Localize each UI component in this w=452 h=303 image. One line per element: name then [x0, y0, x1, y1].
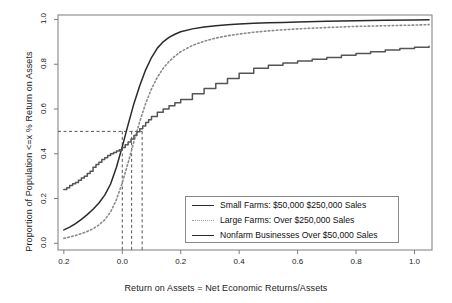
legend-item: Small Farms: $50,000 $250,000 Sales — [186, 199, 398, 212]
y-tick-label: 0.0 — [39, 236, 48, 250]
legend-label: Nonfarm Businesses Over $50,000 Sales — [220, 229, 378, 242]
chart-legend: Small Farms: $50,000 $250,000 Sales Larg… — [185, 196, 399, 243]
legend-label: Large Farms: Over $250,000 Sales — [220, 214, 354, 227]
reference-lines — [58, 131, 142, 250]
series-line — [64, 46, 429, 189]
x-tick-label: 0.0 — [107, 257, 137, 266]
y-tick-label: 0.2 — [39, 191, 48, 205]
y-tick-label: 0.4 — [39, 146, 48, 160]
y-tick-label: 0.6 — [39, 102, 48, 116]
chart-figure: Proportion of Population <=x % Return on… — [0, 0, 452, 303]
y-tick-label: 1.0 — [39, 12, 48, 26]
legend-label: Small Farms: $50,000 $250,000 Sales — [220, 199, 366, 212]
legend-line-swatch-icon — [192, 205, 214, 206]
legend-item: Large Farms: Over $250,000 Sales — [186, 214, 398, 227]
y-tick-label: 0.8 — [39, 57, 48, 71]
x-tick-label: 0.6 — [283, 257, 313, 266]
y-axis-title: Proportion of Population <=x % Return on… — [22, 0, 36, 303]
x-tick-label: 0.2 — [166, 257, 196, 266]
legend-dotted-swatch-icon — [192, 220, 214, 221]
x-axis-title: Return on Assets = Net Economic Returns/… — [0, 283, 452, 293]
x-tick-label: 0.8 — [341, 257, 371, 266]
legend-item: Nonfarm Businesses Over $50,000 Sales — [186, 229, 398, 242]
legend-line-swatch-icon — [192, 235, 214, 236]
x-tick-label: 1.0 — [399, 257, 429, 266]
x-tick-label: 0.4 — [224, 257, 254, 266]
x-tick-label: 0.2 — [49, 257, 79, 266]
